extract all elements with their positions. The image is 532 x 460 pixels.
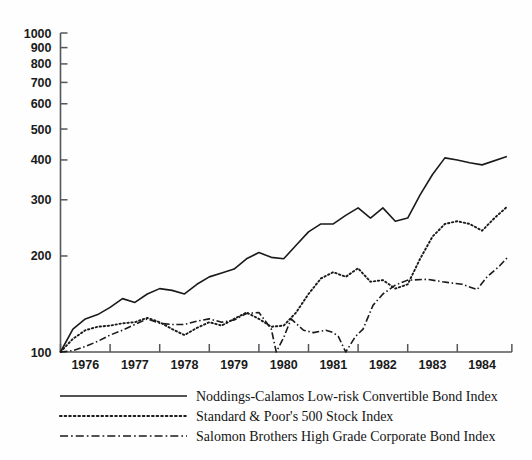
y-axis-tick-label: 300 [31, 193, 52, 207]
x-axis-tick-label: 1983 [419, 358, 447, 372]
line-chart: 1000900800700600500400300200100 19761977… [0, 0, 532, 460]
x-axis-tick-label: 1976 [71, 358, 99, 372]
x-axis-tick-label: 1982 [369, 358, 397, 372]
y-axis-tick-label: 200 [31, 249, 52, 263]
x-axis-tick-label: 1984 [468, 358, 496, 372]
y-axis-tick-label: 800 [31, 57, 52, 71]
y-axis-tick-label: 400 [31, 153, 52, 167]
x-axis-tick-label: 1981 [319, 358, 347, 372]
y-axis-tick-label: 500 [31, 123, 52, 137]
y-axis-tick-label: 700 [31, 76, 52, 90]
legend-label: Standard & Poor's 500 Stock Index [196, 409, 393, 424]
chart-legend: Noddings-Calamos Low-risk Convertible Bo… [60, 389, 498, 444]
chart-page: 1000900800700600500400300200100 19761977… [0, 0, 532, 460]
series-line-dotted [61, 207, 507, 352]
x-axis: 197619771978197919801981198219831984 [61, 344, 512, 372]
y-axis-tick-label: 100 [31, 346, 52, 360]
y-axis-tick-label: 1000 [24, 27, 52, 41]
x-axis-tick-label: 1979 [220, 358, 248, 372]
y-axis-tick-label: 900 [31, 41, 52, 55]
series-line-dashdot [61, 258, 507, 352]
chart-series-group [61, 157, 507, 352]
y-axis: 1000900800700600500400300200100 [24, 27, 68, 360]
x-axis-tick-label: 1977 [121, 358, 149, 372]
y-axis-tick-label: 600 [31, 97, 52, 111]
x-axis-tick-label: 1978 [171, 358, 199, 372]
x-axis-tick-label: 1980 [270, 358, 298, 372]
legend-label: Salomon Brothers High Grade Corporate Bo… [196, 429, 495, 444]
legend-label: Noddings-Calamos Low-risk Convertible Bo… [196, 389, 498, 404]
